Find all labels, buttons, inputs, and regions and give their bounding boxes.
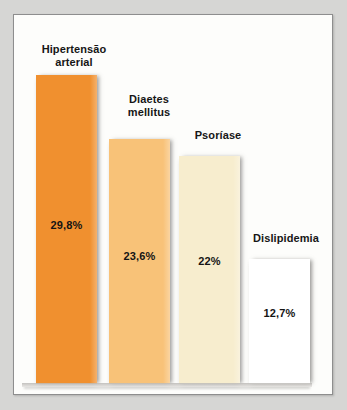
plot-area: Hipertensão arterial Diaetes mellitus Ps…: [14, 15, 332, 394]
bar-label-diaetes-mellitus: Diaetes mellitus: [95, 93, 203, 119]
bar-value-dislipidemia: 12,7%: [249, 307, 310, 319]
bar-value-hipertensao-arterial: 29,8%: [36, 219, 97, 231]
bar-dislipidemia[interactable]: 12,7%: [249, 259, 310, 384]
bar-value-psoriase: 22%: [179, 255, 240, 267]
baseline: [22, 383, 312, 387]
bar-body: [249, 259, 310, 384]
bar-body: [179, 156, 240, 384]
chart-frame: Hipertensão arterial Diaetes mellitus Ps…: [13, 14, 333, 395]
figure: Hipertensão arterial Diaetes mellitus Ps…: [0, 0, 347, 410]
bar-label-dislipidemia: Dislipidemia: [236, 232, 336, 245]
bar-hipertensao-arterial[interactable]: 29,8%: [36, 75, 97, 384]
bar-label-psoriase: Psoríase: [168, 129, 268, 142]
bar-label-hipertensao-arterial: Hipertensão arterial: [20, 43, 128, 69]
bar-diaetes-mellitus[interactable]: 23,6%: [109, 139, 170, 384]
bar-psoriase[interactable]: 22%: [179, 156, 240, 384]
bar-value-diaetes-mellitus: 23,6%: [109, 250, 170, 262]
